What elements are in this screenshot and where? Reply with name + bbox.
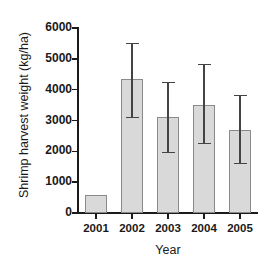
x-tick-label-2001: 2001	[76, 222, 116, 234]
x-tick	[131, 214, 133, 219]
y-tick-label: 0	[12, 205, 72, 219]
y-tick	[72, 89, 78, 91]
error-bar-cap-2002-lower	[126, 117, 139, 118]
error-bar-cap-2002-upper	[126, 43, 139, 44]
error-bar-cap-2003-upper	[162, 82, 175, 83]
error-bar-cap-2005-upper	[234, 95, 247, 96]
x-tick-label-2005: 2005	[220, 222, 260, 234]
error-bar-cap-2005-lower	[234, 163, 247, 164]
x-tick-label-2003: 2003	[148, 222, 188, 234]
x-tick-label-2004: 2004	[184, 222, 224, 234]
error-bar-stem-2005	[239, 95, 240, 163]
x-tick-label-2002: 2002	[112, 222, 152, 234]
x-axis-title: Year	[78, 243, 258, 257]
y-tick-label: 5000	[12, 51, 72, 65]
x-tick	[239, 214, 241, 219]
y-tick-label: 3000	[12, 113, 72, 127]
y-tick	[72, 120, 78, 122]
y-tick-label: 2000	[12, 143, 72, 157]
x-tick	[203, 214, 205, 219]
x-tick	[167, 214, 169, 219]
error-bar-cap-2003-lower	[162, 152, 175, 153]
shrimp-harvest-bar-chart: Shrimp harvest weight (kg/ha) 0100020003…	[0, 0, 272, 269]
y-tick-label: 4000	[12, 82, 72, 96]
y-tick-label: 1000	[12, 174, 72, 188]
y-tick	[72, 58, 78, 60]
bar-2001	[85, 195, 107, 214]
error-bar-cap-2004-upper	[198, 64, 211, 65]
y-tick	[72, 27, 78, 29]
error-bar-stem-2002	[131, 43, 132, 117]
y-tick	[72, 212, 78, 214]
x-tick	[95, 214, 97, 219]
error-bar-stem-2003	[167, 82, 168, 152]
error-bar-stem-2004	[203, 64, 204, 143]
y-tick	[72, 151, 78, 153]
y-tick	[72, 181, 78, 183]
y-tick-label: 6000	[12, 20, 72, 34]
error-bar-cap-2004-lower	[198, 143, 211, 144]
